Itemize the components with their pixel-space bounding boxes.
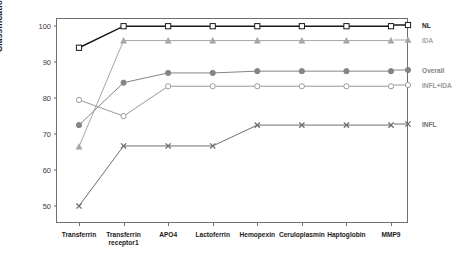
legend-label-nl: NL [422,22,431,29]
data-point-filled-circle [388,69,393,74]
legend-marker-infl [394,119,414,129]
data-point-filled-circle [405,68,410,73]
data-point-open-square [299,24,304,29]
chart-canvas [57,19,409,224]
y-axis-tick-label: 50 [43,202,51,211]
data-point-open-square [210,24,215,29]
x-axis-tick-label: MMP9 [381,231,400,239]
data-point-filled-triangle [76,144,82,150]
y-axis-tick-label: 80 [43,94,51,103]
x-axis-tick-mark [213,222,214,226]
series-infl-ida [76,84,393,119]
data-point-open-square [405,23,410,28]
data-point-filled-circle [255,69,260,74]
legend-marker-overall [394,65,414,75]
data-point-open-square [121,24,126,29]
data-point-filled-circle [299,69,304,74]
series-ida [76,38,394,150]
y-axis-tick-label: 90 [43,58,51,67]
data-point-open-square [388,24,393,29]
y-axis-tick-mark [54,98,57,99]
y-axis-tick-label: 100 [38,22,51,31]
data-point-open-square [255,24,260,29]
data-point-open-circle [255,84,260,89]
data-point-open-circle [121,114,126,119]
x-axis-tick-label: Hemopexin [240,231,276,239]
data-point-open-square [166,24,171,29]
x-axis-tick-mark [168,222,169,226]
legend-label-overall: Overall [422,67,444,74]
data-point-cross-x [76,203,81,208]
plot-area: 5060708090100TransferrinTransferrinrecep… [56,18,408,223]
data-point-open-square [76,45,81,50]
data-point-filled-circle [121,80,126,85]
legend-marker-ida [394,35,414,45]
x-axis-tick-label: APO4 [159,231,177,239]
data-point-filled-circle [344,69,349,74]
data-point-open-circle [210,84,215,89]
series-nl [76,24,393,51]
data-point-open-circle [299,84,304,89]
data-point-open-circle [405,83,410,88]
x-axis-tick-mark [346,222,347,226]
x-axis-tick-label: Lactoferrin [195,231,229,239]
chart-legend: NLIDAOverallINFL+IDAINFL [408,18,463,223]
data-point-open-circle [76,97,81,102]
y-axis-tick-mark [54,26,57,27]
x-axis-tick-label: Haptoglobin [327,231,365,239]
data-point-open-square [344,24,349,29]
y-axis-label: Classification Accuracy (%) [0,0,4,52]
data-point-filled-circle [166,70,171,75]
x-axis-tick-mark [302,222,303,226]
data-point-filled-circle [210,70,215,75]
legend-label-infl-ida: INFL+IDA [422,82,452,89]
data-point-open-circle [166,84,171,89]
data-point-open-circle [344,84,349,89]
y-axis-tick-mark [54,170,57,171]
y-axis-tick-mark [54,62,57,63]
legend-marker-infl-ida [394,80,414,90]
data-point-filled-circle [76,122,81,127]
series-infl [76,122,393,208]
y-axis-tick-mark [54,206,57,207]
x-axis-tick-mark [124,222,125,226]
y-axis-tick-label: 70 [43,130,51,139]
legend-label-ida: IDA [422,36,433,43]
x-axis-tick-mark [257,222,258,226]
data-point-open-circle [388,84,393,89]
x-axis-tick-label: Transferrin [62,231,96,239]
x-axis-tick-label: Ceruloplasmin [279,231,325,239]
legend-marker-nl [394,20,414,30]
legend-label-infl: INFL [422,121,437,128]
y-axis-tick-mark [54,134,57,135]
x-axis-tick-mark [391,222,392,226]
figure: 5060708090100TransferrinTransferrinrecep… [0,0,463,263]
y-axis-tick-label: 60 [43,166,51,175]
x-axis-tick-mark [79,222,80,226]
x-axis-tick-label: Transferrinreceptor1 [106,231,140,247]
